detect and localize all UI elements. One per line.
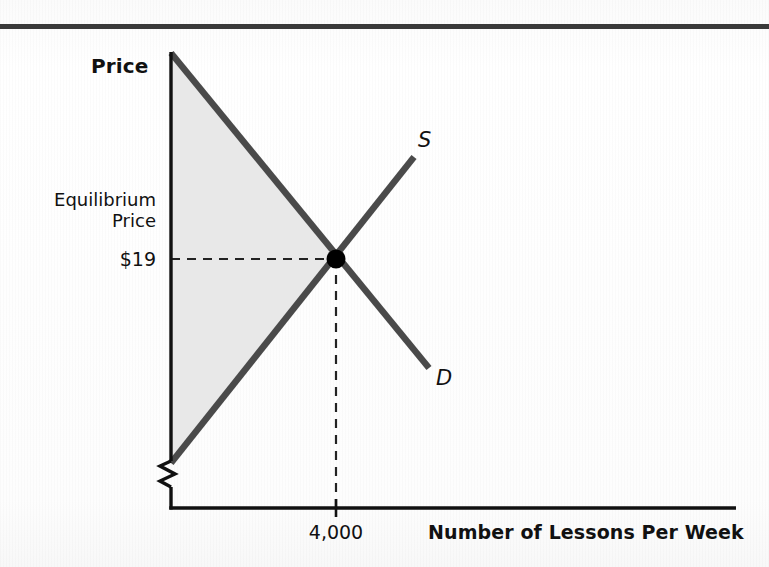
x-axis-title: Number of Lessons Per Week [428,521,744,543]
supply-curve-label: S [418,128,431,153]
equilibrium-point-marker [327,250,346,269]
y-axis-title: Price [91,55,148,79]
x-axis-tick-label-4000: 4,000 [281,521,391,543]
supply-demand-chart [0,0,769,567]
equilibrium-price-value: $19 [8,248,156,270]
y-axis-break-zigzag [160,461,175,487]
supply-demand-figure: Price EquilibriumPrice $19 S D 4,000 Num… [0,0,769,567]
equilibrium-price-label-line2: Price [112,210,156,231]
demand-curve-label: D [436,366,452,391]
equilibrium-price-label-line1: Equilibrium [54,189,156,210]
equilibrium-price-label: EquilibriumPrice [8,189,156,231]
